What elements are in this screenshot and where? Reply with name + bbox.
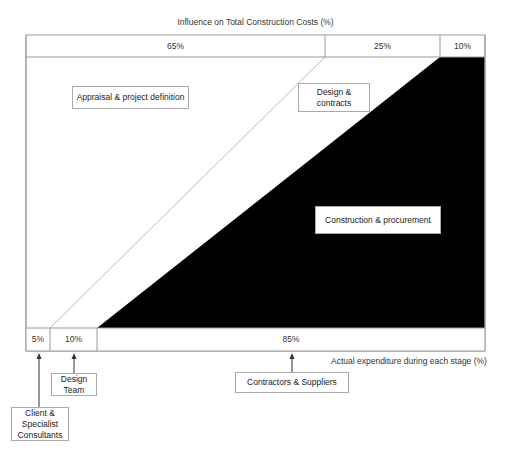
party-design-team: Design Team <box>51 373 97 396</box>
bottom-band-label-5: 5% <box>26 334 50 344</box>
top-band-label-25: 25% <box>325 41 440 51</box>
arrow-client <box>37 353 42 407</box>
region-label-design: Design & contracts <box>298 83 370 112</box>
arrow-design-team <box>72 353 77 373</box>
bottom-axis-label: Actual expenditure during each stage (%) <box>331 356 487 366</box>
region-label-construction: Construction & procurement <box>315 206 441 234</box>
region-label-appraisal: Appraisal & project definition <box>72 86 189 109</box>
arrow-contractors <box>290 353 295 372</box>
bottom-band-label-10: 10% <box>50 334 97 344</box>
top-band-label-10: 10% <box>440 41 485 51</box>
bottom-band-label-85: 85% <box>97 334 485 344</box>
party-client: Client & Specialist Consultants <box>11 407 69 441</box>
party-contractors: Contractors & Suppliers <box>235 372 349 393</box>
top-band-label-65: 65% <box>26 41 325 51</box>
